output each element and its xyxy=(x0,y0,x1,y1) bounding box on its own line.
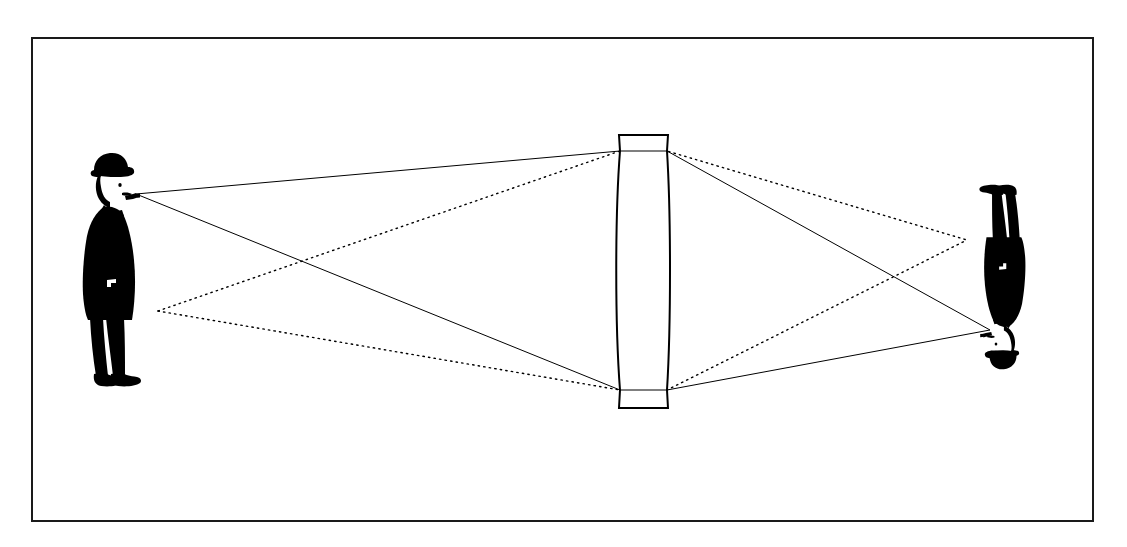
eye xyxy=(118,183,121,187)
lens-body xyxy=(616,135,670,408)
figure-root: A man in a bowler hat smoking a pipe sta… xyxy=(0,0,1127,547)
pipe-stem xyxy=(135,194,140,199)
eye-image xyxy=(995,342,998,345)
page-background xyxy=(0,0,1127,547)
biconvex-lens xyxy=(616,135,670,408)
pipe-stem-image xyxy=(980,334,984,338)
lens-ray-diagram: A man in a bowler hat smoking a pipe sta… xyxy=(0,0,1127,547)
